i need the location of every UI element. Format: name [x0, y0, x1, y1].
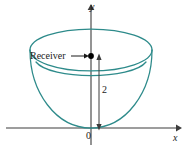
- y-axis-label: y: [90, 2, 94, 12]
- paraboloid-dish-figure: Receiver 2 0 y x: [0, 0, 192, 153]
- receiver-focus-dot: [88, 53, 94, 59]
- receiver-label: Receiver: [30, 51, 66, 61]
- depth-dimension-arrowhead-top: [96, 54, 101, 61]
- depth-value-label: 2: [102, 85, 107, 95]
- figure-canvas: [0, 0, 192, 153]
- depth-dimension-group: [96, 54, 101, 131]
- x-axis-arrowhead: [176, 125, 182, 132]
- origin-label: 0: [86, 131, 91, 141]
- x-axis-label: x: [173, 133, 177, 143]
- receiver-pointer-group: [71, 53, 94, 59]
